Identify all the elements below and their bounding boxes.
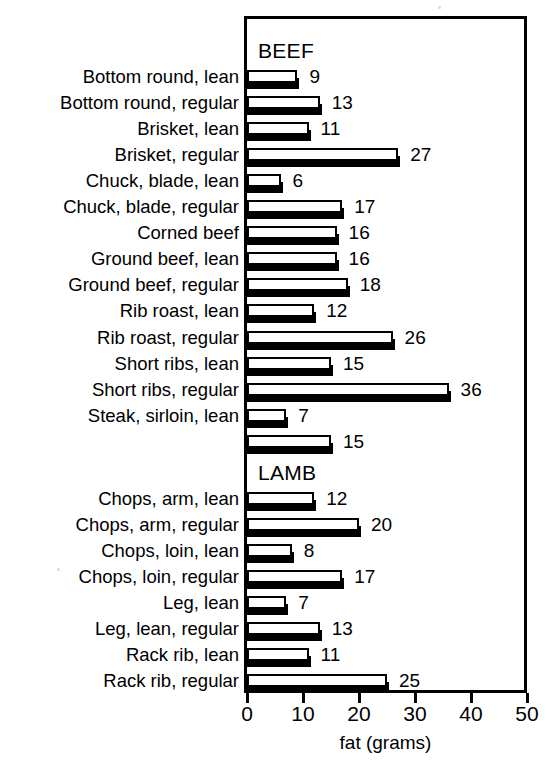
x-axis-tick-label: 40: [451, 703, 491, 725]
x-axis-tick-label: 30: [395, 703, 435, 725]
fat-grams-bar-chart: BEEF LAMB Bottom round, leanBottom round…: [0, 0, 548, 764]
x-axis-tick-label: 20: [339, 703, 379, 725]
x-axis-title: fat (grams): [244, 733, 527, 753]
x-axis-tick-label: 50: [507, 703, 547, 725]
x-axis: fat (grams) 01020304050: [0, 0, 548, 764]
x-axis-tick-label: 10: [283, 703, 323, 725]
x-axis-tick-label: 0: [227, 703, 267, 725]
